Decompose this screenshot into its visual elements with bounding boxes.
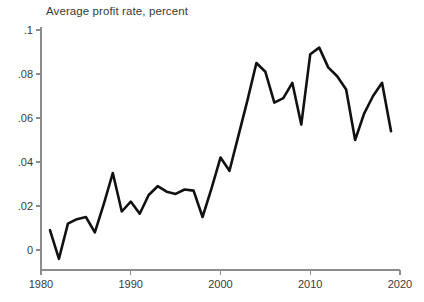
y-tick-label: .06: [18, 112, 33, 124]
x-tick-label: 1990: [119, 278, 143, 290]
x-tick-label: 2000: [208, 278, 232, 290]
y-tick-label: .02: [18, 200, 33, 212]
x-tick-label: 2020: [388, 278, 412, 290]
profit-rate-line: [50, 48, 391, 259]
line-chart-plot: 0.02.04.06.08.1 19801990200020102020: [0, 0, 424, 302]
y-tick-label: .1: [24, 24, 33, 36]
y-tick-label: .04: [18, 156, 33, 168]
y-tick-label: .08: [18, 68, 33, 80]
x-axis-ticks: 19801990200020102020: [29, 270, 412, 290]
y-tick-label: 0: [27, 244, 33, 256]
data-series: [50, 48, 391, 259]
y-axis-ticks: 0.02.04.06.08.1: [18, 24, 41, 256]
x-tick-label: 1980: [29, 278, 53, 290]
chart-figure: Average profit rate, percent 0.02.04.06.…: [0, 0, 424, 302]
x-tick-label: 2010: [298, 278, 322, 290]
